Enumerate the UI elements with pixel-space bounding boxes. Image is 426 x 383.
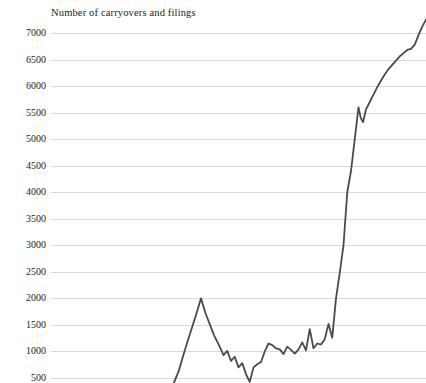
line-series-svg [0,0,426,383]
plot-area: 7000650060005500500045004000350030002500… [0,0,426,383]
series-layer [0,0,426,383]
chart-figure: Number of carryovers and filings 7000650… [0,0,426,383]
line-series-path [172,20,426,383]
